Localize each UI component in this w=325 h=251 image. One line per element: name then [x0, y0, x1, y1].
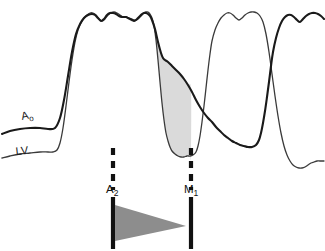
lv-curve-label: LV [15, 144, 29, 157]
pressure-tracing-figure: Ao LV A2 M1 [0, 0, 325, 251]
tracing-canvas: Ao LV A2 M1 [0, 0, 325, 251]
a2-label-sub: 2 [114, 188, 119, 198]
m1-label-main: M [184, 183, 194, 195]
m1-label-sub: 1 [194, 188, 199, 198]
